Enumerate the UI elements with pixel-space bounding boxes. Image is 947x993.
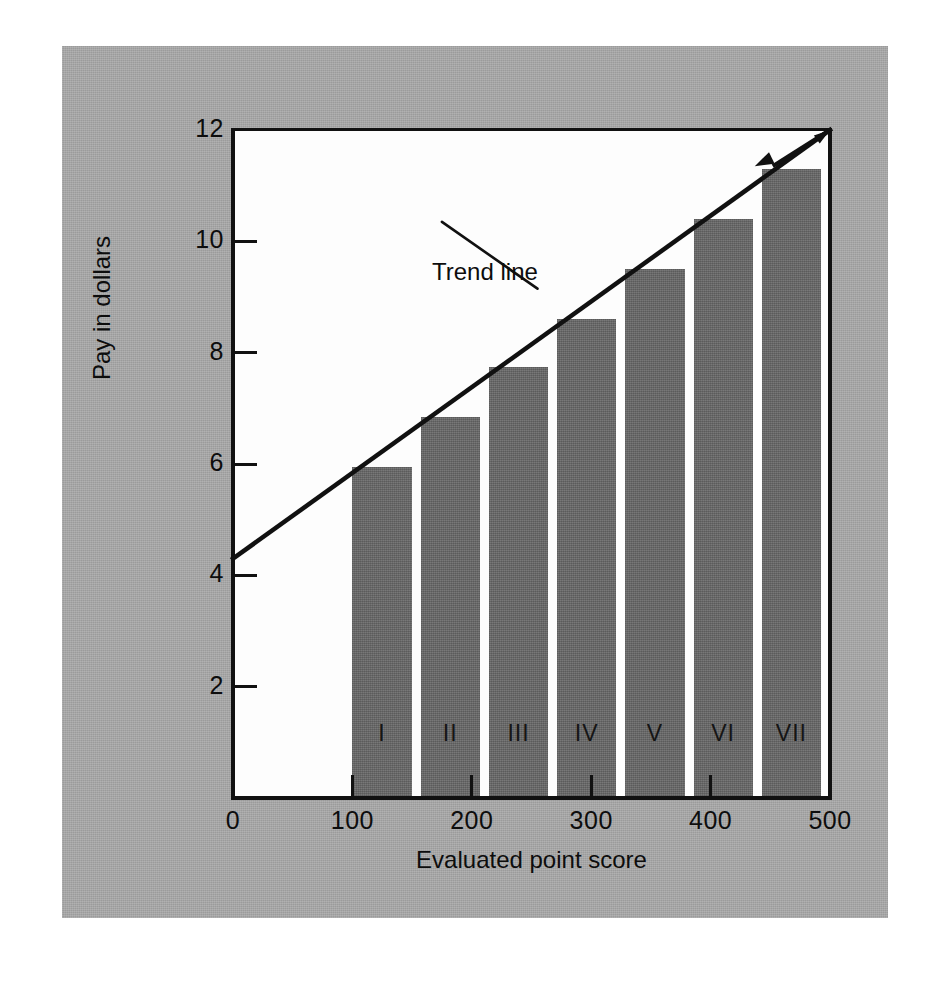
bar-V <box>625 269 684 798</box>
trend-line-label: Trend line <box>432 258 538 286</box>
y-tick-label-12: 12 <box>178 114 224 144</box>
x-tick-label-200: 200 <box>432 806 512 835</box>
bar-label-VII: VII <box>751 720 831 747</box>
x-tick-label-500: 500 <box>790 806 870 835</box>
x-tick-100 <box>351 775 354 797</box>
y-tick-label-text: 2 <box>182 671 224 700</box>
y-tick-label-text: 6 <box>182 448 224 477</box>
axis-bottom-spine <box>231 796 832 800</box>
figure-canvas: IIIIIIIVVVIVII 24681012 0100200300400500… <box>0 0 947 993</box>
x-tick-label-400: 400 <box>671 806 751 835</box>
y-tick-4 <box>235 574 257 577</box>
bar-VI <box>694 219 753 798</box>
x-tick-label-100: 100 <box>312 806 392 835</box>
x-axis-title: Evaluated point score <box>233 846 830 874</box>
y-axis-title: Pay in dollars <box>88 130 116 380</box>
x-tick-label-300: 300 <box>551 806 631 835</box>
axis-right-spine <box>828 128 832 800</box>
y-tick-6 <box>235 463 257 466</box>
x-tick-300 <box>590 775 593 797</box>
bar-VII <box>762 169 821 798</box>
axis-top-spine <box>231 128 832 131</box>
y-tick-label-2: 2 <box>178 671 224 701</box>
y-tick-label-10: 10 <box>178 225 224 255</box>
y-tick-label-4: 4 <box>178 559 224 589</box>
y-tick-2 <box>235 685 257 688</box>
x-tick-label-0: 0 <box>193 806 273 835</box>
y-tick-label-text: 12 <box>182 114 224 143</box>
y-tick-label-text: 10 <box>182 225 224 254</box>
x-tick-400 <box>709 775 712 797</box>
y-tick-8 <box>235 351 257 354</box>
x-tick-200 <box>470 775 473 797</box>
y-tick-10 <box>235 240 257 243</box>
y-tick-label-8: 8 <box>178 337 224 367</box>
bar-I <box>352 467 411 798</box>
y-tick-label-6: 6 <box>178 448 224 478</box>
y-tick-label-text: 8 <box>182 337 224 366</box>
y-axis-title-text: Pay in dollars <box>88 236 116 380</box>
y-tick-label-text: 4 <box>182 559 224 588</box>
